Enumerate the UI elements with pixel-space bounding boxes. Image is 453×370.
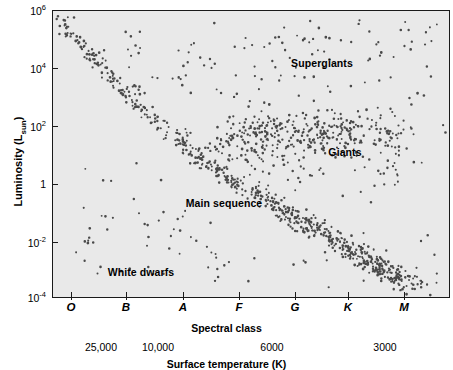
temperature-tick-label: 10,000 bbox=[142, 341, 174, 353]
y-tick-label: 10-4 bbox=[28, 291, 46, 303]
star-points bbox=[55, 15, 446, 296]
y-tick-mark bbox=[52, 184, 58, 185]
y-tick-mark bbox=[52, 242, 58, 243]
x-tick-mark bbox=[183, 292, 184, 300]
region-label: White dwarfs bbox=[108, 266, 175, 278]
x-tick-label: M bbox=[399, 301, 409, 313]
y-axis-title-subscript: sun bbox=[19, 120, 28, 134]
y-axis-title-text: Luminosity (L bbox=[12, 135, 24, 207]
scatter-points-layer bbox=[53, 11, 449, 297]
y-axis-title-close: ) bbox=[12, 117, 24, 121]
x-tick-mark bbox=[295, 292, 296, 300]
y-tick-mark bbox=[52, 68, 58, 69]
x-tick-mark bbox=[239, 292, 240, 300]
x-tick-label: B bbox=[122, 301, 130, 313]
x-tick-mark bbox=[71, 292, 72, 300]
temperature-tick-label: 25,000 bbox=[85, 341, 117, 353]
plot-area bbox=[52, 10, 450, 298]
x-tick-mark bbox=[404, 292, 405, 300]
x-axis-title: Spectral class bbox=[0, 322, 453, 334]
x-tick-label: F bbox=[235, 301, 242, 313]
x-tick-label: O bbox=[67, 301, 76, 313]
y-tick-label: 10-2 bbox=[28, 236, 46, 248]
temperature-tick-label: 6000 bbox=[260, 341, 283, 353]
region-label: Giants bbox=[328, 146, 361, 158]
region-label: Main sequence bbox=[186, 197, 263, 209]
y-tick-mark bbox=[52, 126, 58, 127]
x-tick-mark bbox=[348, 292, 349, 300]
y-tick-label: 106 bbox=[30, 4, 46, 16]
x-tick-label: G bbox=[291, 301, 300, 313]
y-tick-label: 104 bbox=[30, 62, 46, 74]
temperature-axis-title: Surface temperature (K) bbox=[0, 358, 453, 370]
region-label: Supergiants bbox=[291, 57, 353, 69]
y-axis-title: Luminosity (Lsun) bbox=[12, 82, 27, 242]
x-tick-label: K bbox=[344, 301, 352, 313]
x-tick-label: A bbox=[179, 301, 187, 313]
y-tick-label: 102 bbox=[30, 120, 46, 132]
temperature-tick-label: 3000 bbox=[373, 341, 396, 353]
x-tick-mark bbox=[126, 292, 127, 300]
y-tick-label: 1 bbox=[40, 179, 46, 190]
